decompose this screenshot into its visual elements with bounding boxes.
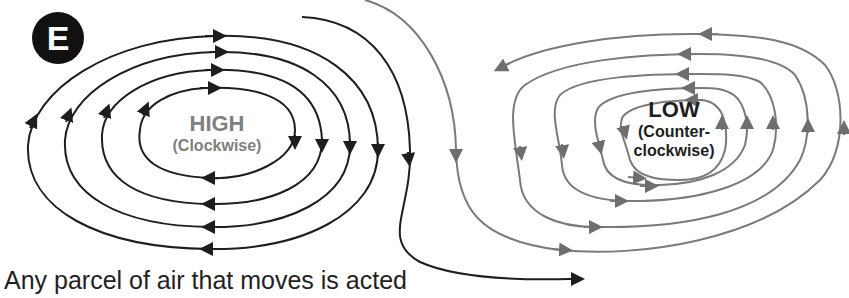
svg-text:HIGH: HIGH (190, 111, 245, 136)
svg-text:(Counter-: (Counter- (638, 123, 710, 140)
caption-text: Any parcel of air that moves is acted (4, 266, 407, 295)
low-label: LOW (Counter- clockwise) (634, 97, 715, 159)
diagram-canvas: E HIGH (Clockwise) (0, 0, 849, 298)
badge-e-icon: E (32, 12, 84, 64)
svg-text:clockwise): clockwise) (634, 142, 715, 159)
high-pressure-streamlines (28, 17, 578, 279)
pressure-circulation-diagram: E HIGH (Clockwise) (0, 0, 849, 298)
svg-text:LOW: LOW (648, 97, 700, 122)
svg-text:E: E (47, 19, 70, 57)
low-pressure-streamlines (365, 0, 844, 252)
high-label: HIGH (Clockwise) (173, 111, 262, 154)
svg-text:(Clockwise): (Clockwise) (173, 137, 262, 154)
